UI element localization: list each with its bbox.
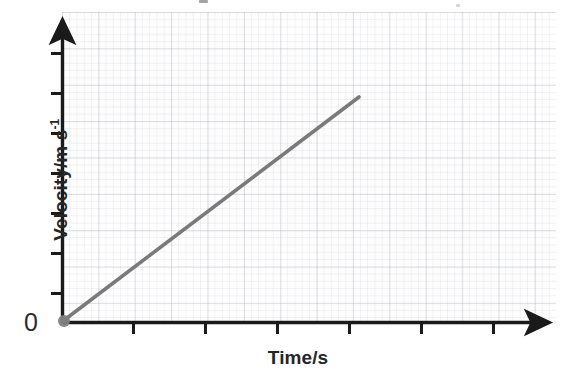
plot-canvas	[0, 0, 575, 381]
velocity-data-line	[63, 97, 359, 321]
y-axis-label-text: Velocity/m s	[50, 130, 71, 241]
origin-point-marker	[58, 315, 70, 327]
y-axis-label-exponent: -1	[48, 119, 62, 130]
origin-zero-label: 0	[24, 308, 38, 337]
x-axis-label: Time/s	[228, 347, 368, 369]
velocity-time-graph-figure: Velocity/m s-1 Time/s 0	[0, 0, 575, 381]
y-axis-label: Velocity/m s-1	[48, 80, 71, 280]
